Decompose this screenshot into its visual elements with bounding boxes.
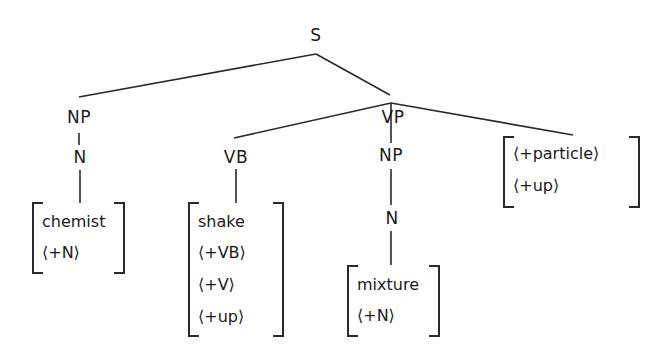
feature-line: ⟨+up⟩ xyxy=(513,178,559,194)
feature-line: ⟨+N⟩ xyxy=(42,245,80,261)
feature-line: ⟨+N⟩ xyxy=(357,308,395,324)
feature-line: chemist xyxy=(42,214,105,230)
node-n-subject: N xyxy=(73,147,86,167)
feature-line: shake xyxy=(198,214,245,230)
lexical-entry-particle: ⟨+particle⟩ ⟨+up⟩ xyxy=(503,136,640,208)
feature-line: ⟨+particle⟩ xyxy=(513,146,599,162)
feature-line: mixture xyxy=(357,277,419,293)
feature-line: ⟨+up⟩ xyxy=(198,309,244,325)
feature-line: ⟨+VB⟩ xyxy=(198,245,246,261)
node-vb: VB xyxy=(224,147,248,167)
node-vp: VP xyxy=(382,107,405,127)
feature-line: ⟨+V⟩ xyxy=(198,277,235,293)
node-s: S xyxy=(310,25,321,45)
lexical-entry-mixture: mixture ⟨+N⟩ xyxy=(347,265,440,337)
node-np-object: NP xyxy=(379,145,403,165)
lexical-entry-shake: shake ⟨+VB⟩ ⟨+V⟩ ⟨+up⟩ xyxy=(188,202,284,337)
node-n-object: N xyxy=(385,208,398,228)
lexical-entry-chemist: chemist ⟨+N⟩ xyxy=(32,202,125,274)
node-np-subject: NP xyxy=(67,107,91,127)
